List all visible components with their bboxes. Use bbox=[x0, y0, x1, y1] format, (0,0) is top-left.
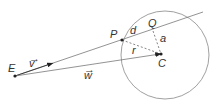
v-arrow-accent: → bbox=[29, 52, 40, 64]
w-arrow-accent: → bbox=[84, 63, 95, 75]
point-c bbox=[159, 52, 162, 55]
point-e bbox=[13, 74, 16, 77]
label-a: a bbox=[160, 32, 166, 44]
label-e: E bbox=[8, 62, 16, 74]
label-q: Q bbox=[148, 17, 157, 29]
r-dashed-line bbox=[122, 40, 161, 54]
label-p: P bbox=[110, 28, 118, 40]
label-c: C bbox=[158, 57, 166, 69]
label-d: d bbox=[130, 24, 137, 36]
label-r: r bbox=[132, 44, 137, 56]
ray-sphere-diagram: E P Q C d a r v → w → bbox=[0, 0, 214, 102]
point-p bbox=[120, 38, 123, 41]
